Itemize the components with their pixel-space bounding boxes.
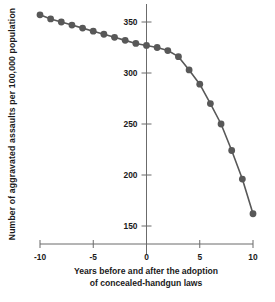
data-point-marker xyxy=(58,19,65,26)
y-axis-tick-label: 300 xyxy=(124,68,138,78)
y-axis-tick-label: 250 xyxy=(124,119,138,129)
data-point-marker xyxy=(111,34,118,41)
data-point-marker xyxy=(122,37,129,44)
data-point-marker xyxy=(101,31,108,38)
data-point-marker xyxy=(186,67,193,74)
x-axis-tick-label: 0 xyxy=(144,252,149,262)
data-point-marker xyxy=(132,40,139,47)
x-axis-title: Years before and after the adoption of c… xyxy=(22,266,270,289)
x-axis-tick-label: -10 xyxy=(34,252,46,262)
plot-area: -10-50510150200250300350 xyxy=(22,0,275,268)
x-axis-tick-label: 5 xyxy=(197,252,202,262)
line-chart-svg: -10-50510150200250300350 xyxy=(22,0,275,268)
data-point-marker xyxy=(239,176,246,183)
x-axis-tick-label: -5 xyxy=(90,252,98,262)
y-axis-tick-label: 350 xyxy=(124,17,138,27)
data-point-marker xyxy=(164,47,171,54)
data-point-marker xyxy=(90,28,97,35)
data-point-marker xyxy=(37,11,44,18)
x-axis-title-line1: Years before and after the adoption xyxy=(74,266,218,276)
data-point-marker xyxy=(218,121,225,128)
data-point-marker xyxy=(207,100,214,107)
chart-figure: Number of aggravated assaults per 100,00… xyxy=(0,0,275,302)
y-axis-tick-label: 150 xyxy=(124,221,138,231)
data-point-marker xyxy=(69,22,76,29)
data-point-marker xyxy=(228,147,235,154)
data-point-marker xyxy=(154,44,161,51)
data-point-marker xyxy=(250,210,257,217)
data-point-marker xyxy=(79,25,86,32)
x-axis-tick-label: 10 xyxy=(248,252,258,262)
y-axis-tick-label: 200 xyxy=(124,170,138,180)
data-point-marker xyxy=(175,53,182,60)
data-point-marker xyxy=(47,16,54,23)
y-axis-title-text: Number of aggravated assaults per 100,00… xyxy=(7,8,17,240)
x-axis-title-line2: of concealed-handgun laws xyxy=(22,278,270,290)
y-axis-title: Number of aggravated assaults per 100,00… xyxy=(0,0,24,248)
data-point-marker xyxy=(143,42,150,49)
data-point-marker xyxy=(196,81,203,88)
